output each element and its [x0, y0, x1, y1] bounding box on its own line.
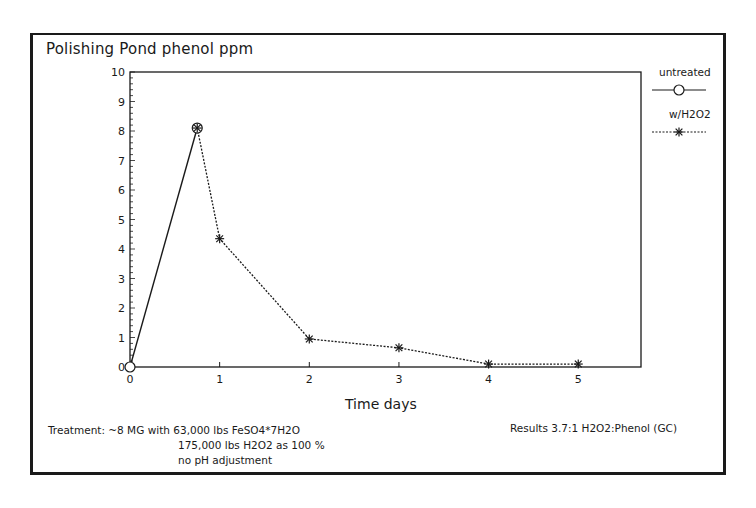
legend-untreated-label: untreated — [659, 66, 711, 78]
y-tick-label: 1 — [118, 332, 125, 345]
x-tick-label: 4 — [485, 373, 492, 386]
y-tick-label: 3 — [118, 273, 125, 286]
y-tick-label: 8 — [118, 125, 125, 138]
y-tick-label: 4 — [118, 243, 125, 256]
treatment-note-line3: no pH adjustment — [178, 454, 272, 466]
y-tick-label: 5 — [118, 214, 125, 227]
x-tick-label: 1 — [216, 373, 223, 386]
treatment-note-line2: 175,000 lbs H2O2 as 100 % — [178, 439, 325, 451]
series-line-treated — [197, 128, 578, 364]
asterisk-marker-icon — [484, 360, 493, 369]
x-tick-label: 5 — [575, 373, 582, 386]
x-tick-label: 0 — [127, 373, 134, 386]
asterisk-marker-icon — [193, 124, 202, 133]
y-tick-label: 7 — [118, 155, 125, 168]
treatment-note-line1: Treatment: ~8 MG with 63,000 lbs FeSO4*7… — [48, 424, 300, 436]
asterisk-marker-icon — [574, 360, 583, 369]
asterisk-marker-icon — [215, 234, 224, 243]
results-note: Results 3.7:1 H2O2:Phenol (GC) — [510, 422, 677, 434]
circle-marker-icon — [674, 85, 684, 95]
y-tick-label: 2 — [118, 302, 125, 315]
asterisk-marker-icon — [675, 128, 684, 137]
x-axis-label: Time days — [345, 396, 417, 412]
y-tick-label: 9 — [118, 96, 125, 109]
plot-border — [130, 72, 641, 367]
asterisk-marker-icon — [305, 334, 314, 343]
x-tick-label: 2 — [306, 373, 313, 386]
circle-marker-icon — [125, 362, 135, 372]
y-tick-label: 0 — [118, 361, 125, 374]
series-line-untreated — [130, 128, 197, 367]
y-tick-label: 10 — [111, 66, 125, 79]
x-tick-label: 3 — [395, 373, 402, 386]
y-tick-label: 6 — [118, 184, 125, 197]
legend-treated-label: w/H2O2 — [669, 108, 711, 120]
asterisk-marker-icon — [394, 343, 403, 352]
